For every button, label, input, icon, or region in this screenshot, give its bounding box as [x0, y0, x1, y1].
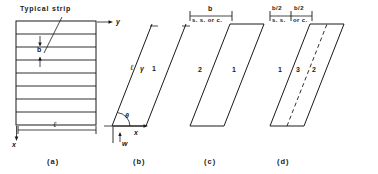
panel-a-plate — [16, 21, 96, 125]
panel-c-width-label: b — [208, 5, 213, 12]
panel-a-length-dimension — [18, 126, 96, 134]
panel-c-strip — [190, 24, 264, 126]
panel-a-axis-y — [97, 20, 113, 24]
panel-caption-b: (b) — [133, 158, 146, 166]
panel-b-edge-1-label: 1 — [152, 65, 156, 72]
axis-y-label-a: y — [116, 18, 120, 25]
panel-b-axis-x-label: x — [134, 129, 138, 136]
panel-b-gamma-label: γ — [140, 65, 144, 72]
panel-d-support-left-label: s. s. — [272, 17, 286, 23]
typical-strip-label: Typical strip — [20, 5, 71, 12]
panel-d-width-left-label: b/2 — [272, 5, 282, 11]
axis-x-label-a: x — [12, 141, 16, 148]
strip-width-label-b: b — [37, 46, 42, 53]
panel-caption-d: (d) — [277, 158, 290, 166]
panel-c-edge-2-label: 2 — [198, 66, 202, 73]
panel-c-edge-1-label: 1 — [232, 66, 236, 73]
panel-b-strip — [104, 24, 190, 126]
figure-canvas — [0, 0, 378, 174]
panel-caption-a: (a) — [47, 158, 59, 166]
panel-b-angle-label: θ — [125, 112, 129, 119]
panel-d-width-right-label: b/2 — [294, 5, 304, 11]
panel-d-support-right-label: or c. — [293, 17, 308, 23]
panel-d-strip — [270, 24, 344, 126]
panel-d-edge-3-label: 3 — [296, 66, 300, 73]
panel-b-length-label: ℓ — [130, 64, 134, 72]
panel-b-load-label: w — [122, 140, 128, 147]
panel-b-axes — [113, 124, 148, 143]
panel-caption-c: (c) — [204, 158, 216, 166]
panel-d-edge-2-label: 2 — [312, 66, 316, 73]
panel-d-edge-1-label: 1 — [278, 66, 282, 73]
plate-length-label: ℓ — [53, 121, 57, 129]
panel-c-support-label: s. s. or c. — [192, 17, 222, 23]
